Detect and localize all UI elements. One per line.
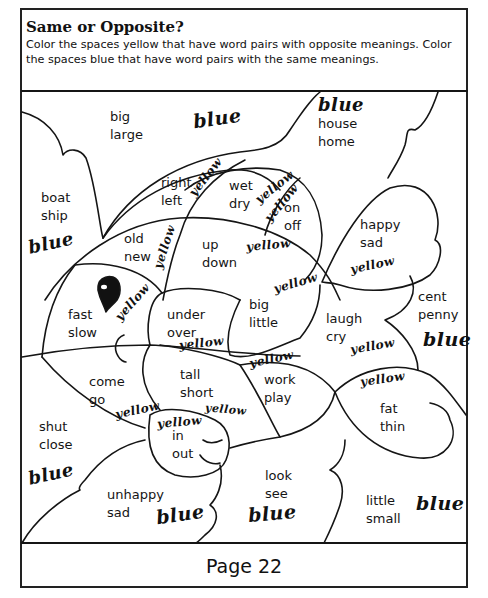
handwriting-blue-little-small: blue	[416, 492, 464, 514]
label-old-new: old new	[124, 230, 151, 266]
region-boundary-laugh-cry	[385, 276, 418, 370]
label-fat-thin: fat thin	[380, 400, 405, 436]
label-little-small: little small	[366, 492, 401, 528]
fish-eye-icon	[98, 277, 120, 312]
label-shut-close: shut close	[39, 418, 72, 454]
label-happy-sad: happy sad	[360, 216, 400, 252]
fish-gill-icon	[116, 335, 126, 362]
label-cent-penny: cent penny	[418, 288, 458, 324]
label-come-go: come go	[89, 373, 125, 409]
handwriting-blue-cent-penny: blue	[423, 328, 471, 350]
handwriting-blue-house-home: blue	[318, 94, 364, 115]
page-number: Page 22	[0, 555, 488, 577]
label-up-down: up down	[202, 236, 237, 272]
region-boundary-in-out-detail	[200, 440, 222, 464]
region-boundary-look-see	[324, 440, 345, 543]
label-right-left: right left	[161, 174, 192, 210]
label-big-little: big little	[249, 296, 278, 332]
fish-coloring-drawing	[0, 0, 488, 598]
label-tall-short: tall short	[180, 366, 213, 402]
label-wet-dry: wet dry	[229, 177, 253, 213]
label-work-play: work play	[264, 371, 295, 407]
label-big-large: big large	[110, 108, 143, 144]
label-boat-ship: boat ship	[41, 189, 70, 225]
label-fast-slow: fast slow	[68, 306, 97, 342]
label-in-out: in out	[172, 427, 193, 463]
region-boundary-house	[388, 92, 438, 178]
label-look-see: look see	[265, 467, 292, 503]
label-house-home: house home	[318, 115, 357, 151]
handwriting-blue-look-see: blue	[247, 500, 297, 526]
